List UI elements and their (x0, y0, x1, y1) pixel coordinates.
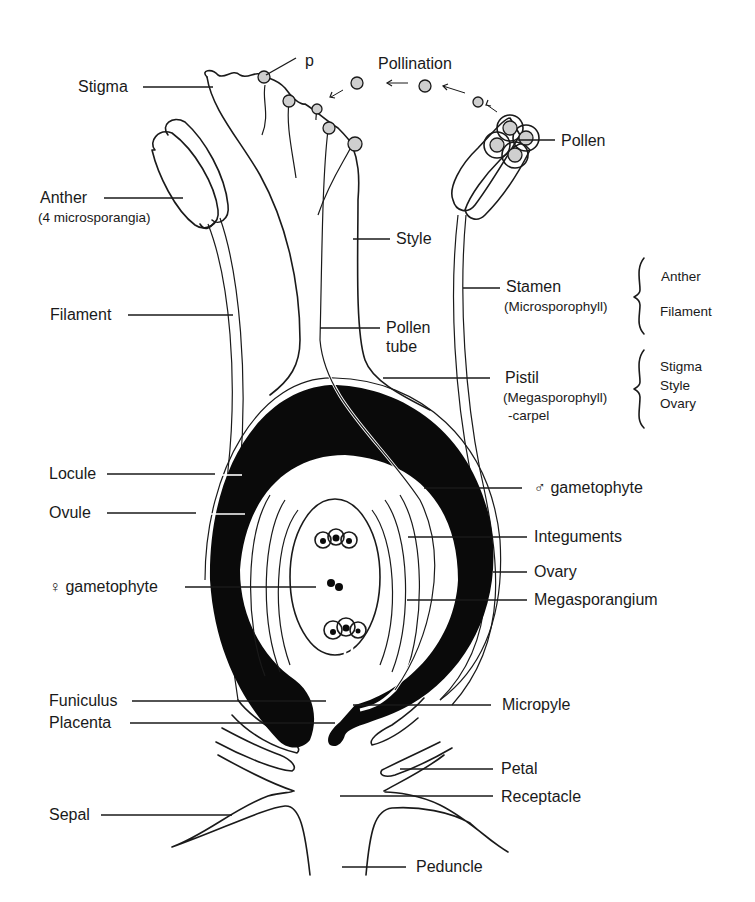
pollen-grains (258, 71, 483, 151)
stamen-parts-brace: Anther Filament (634, 258, 712, 334)
label-megasporangium: Megasporangium (534, 591, 658, 608)
label-anther-note: (4 microsporangia) (38, 210, 151, 225)
label-placenta: Placenta (49, 714, 111, 731)
label-pistil: Pistil (505, 369, 539, 386)
label-filament: Filament (50, 306, 112, 323)
label-funiculus: Funiculus (49, 692, 117, 709)
label-integuments: Integuments (534, 528, 622, 545)
pistil-part-stigma: Stigma (660, 359, 703, 374)
label-ovule: Ovule (49, 504, 91, 521)
label-pollen-tube-line1: Pollen (386, 319, 430, 336)
label-ovary: Ovary (534, 563, 577, 580)
label-anther: Anther (40, 189, 88, 206)
pistil-part-style: Style (660, 378, 690, 393)
label-style: Style (396, 230, 432, 247)
label-male-gametophyte: ♂ gametophyte (534, 479, 643, 496)
label-stamen-note: (Microsporophyll) (504, 299, 608, 314)
label-locule: Locule (49, 465, 96, 482)
label-petal: Petal (501, 760, 537, 777)
label-pistil-note2: -carpel (508, 408, 549, 423)
stamen-part-filament: Filament (660, 304, 712, 319)
pistil-part-ovary: Ovary (660, 396, 696, 411)
label-micropyle: Micropyle (502, 696, 571, 713)
label-pollen-tube-line2: tube (386, 338, 417, 355)
labels: p Pollination Stigma Pollen Anther (4 mi… (38, 52, 658, 875)
pistil-parts-brace: Stigma Style Ovary (634, 350, 703, 428)
label-female-gametophyte: ♀ gametophyte (49, 578, 158, 595)
label-pistil-note: (Megasporophyll) (503, 390, 607, 405)
label-p: p (305, 52, 314, 69)
label-stigma: Stigma (78, 78, 128, 95)
label-receptacle: Receptacle (501, 788, 581, 805)
stamen-part-anther: Anther (661, 269, 701, 284)
label-pollen: Pollen (561, 132, 605, 149)
label-stamen: Stamen (506, 278, 561, 295)
leader-lines (101, 58, 555, 867)
label-sepal: Sepal (49, 806, 90, 823)
label-pollination: Pollination (378, 55, 452, 72)
flower-section-diagram: p Pollination Stigma Pollen Anther (4 mi… (0, 0, 755, 902)
label-peduncle: Peduncle (416, 858, 483, 875)
